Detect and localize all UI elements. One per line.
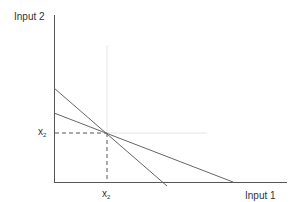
x-axis-label: Input 1 bbox=[245, 190, 276, 201]
y-tick-subscript: 2 bbox=[43, 132, 46, 138]
y-axis-label: Input 2 bbox=[14, 11, 45, 22]
x-tick-subscript: 2 bbox=[107, 194, 110, 200]
shallow-line bbox=[54, 113, 233, 182]
steep-line bbox=[54, 88, 167, 186]
y-tick-x2: x2 bbox=[38, 126, 46, 137]
x-tick-x2: x2 bbox=[102, 188, 110, 199]
diagram-canvas bbox=[0, 0, 300, 202]
